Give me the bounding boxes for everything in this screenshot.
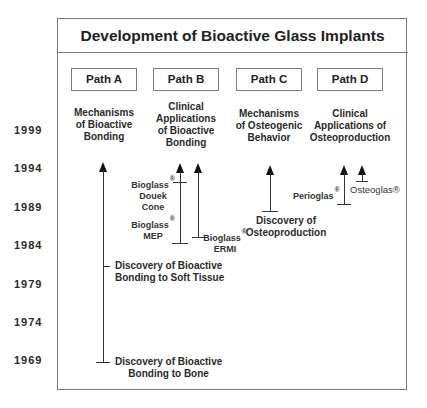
diagram-title: Development of Bioactive Glass Implants xyxy=(57,18,408,53)
soft-tissue-tick xyxy=(103,266,110,267)
osteoproduction-label: Discovery of Osteoproduction xyxy=(236,215,336,239)
year-label: 1979 xyxy=(14,278,42,290)
year-label: 1969 xyxy=(14,354,42,366)
douek-cone-tick xyxy=(173,182,187,183)
path-d-description: Clinical Applications of Osteoproduction xyxy=(300,108,400,144)
osteoproduction-tick xyxy=(262,211,278,212)
year-label: 1974 xyxy=(14,316,42,328)
bone-label: Discovery of Bioactive Bonding to Bone xyxy=(115,356,222,380)
path-d-timeline-perioglas xyxy=(344,173,345,204)
label-line: Cone xyxy=(131,202,175,213)
mep-label: Bioglass® MEP xyxy=(131,213,175,242)
perioglas-label: Perioglas® xyxy=(293,184,340,202)
year-label: 1984 xyxy=(14,239,42,251)
label-line: Bioglass® xyxy=(131,173,175,191)
label-line: Douek xyxy=(131,191,175,202)
label-line: Bonding to Soft Tissue xyxy=(115,272,224,284)
path-d-box: Path D xyxy=(317,68,383,91)
year-label: 1989 xyxy=(14,201,42,213)
soft-tissue-label: Discovery of Bioactive Bonding to Soft T… xyxy=(115,260,224,284)
perioglas-tick xyxy=(337,204,351,205)
label-line: Osteoproduction xyxy=(236,227,336,239)
osteoglas-label: Osteoglas® xyxy=(350,184,400,195)
label-line: ERMI xyxy=(203,244,247,255)
path-a-box: Path A xyxy=(71,68,137,91)
year-label: 1999 xyxy=(14,124,42,136)
path-c-box: Path C xyxy=(236,68,302,91)
label-line: Discovery of Bioactive xyxy=(115,356,222,368)
douek-cone-label: Bioglass® Douek Cone xyxy=(131,173,175,213)
label-line: MEP xyxy=(131,231,175,242)
desc-line: Osteoproduction xyxy=(300,132,400,144)
mep-tick xyxy=(172,243,188,244)
year-label: 1994 xyxy=(14,162,42,174)
label-line: Discovery of Bioactive xyxy=(115,260,224,272)
label-line: Bonding to Bone xyxy=(115,368,222,380)
osteoglas-tick xyxy=(356,181,368,182)
label-line: Discovery of xyxy=(236,215,336,227)
path-b-timeline-ermi xyxy=(198,171,199,237)
desc-line: Clinical xyxy=(300,108,400,120)
label-line: Bioglass® xyxy=(131,213,175,231)
path-b-box: Path B xyxy=(153,68,219,91)
path-c-timeline xyxy=(270,173,271,211)
bone-tick xyxy=(96,362,110,363)
desc-line: Applications of xyxy=(300,120,400,132)
